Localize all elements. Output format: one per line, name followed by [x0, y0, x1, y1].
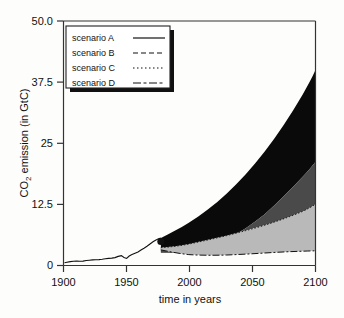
x-axis-title: time in years [159, 293, 222, 305]
legend-label-scenario-c: scenario C [72, 63, 116, 73]
present-day-point-marker [157, 238, 164, 245]
y-tick-label-0: 0 [47, 259, 53, 271]
x-tick-label-1950: 1950 [114, 276, 138, 288]
y-axis-title-main: CO [18, 181, 30, 198]
x-tick-label-2000: 2000 [177, 276, 201, 288]
y-tick-label-37-5: 37.5 [32, 76, 53, 88]
x-tick-label-2050: 2050 [240, 276, 264, 288]
legend-label-scenario-d: scenario D [72, 78, 116, 88]
legend-label-scenario-b: scenario B [72, 48, 115, 58]
legend-label-scenario-a: scenario A [72, 33, 114, 43]
x-tick-label-2100: 2100 [303, 276, 327, 288]
y-tick-label-50: 50.0 [32, 15, 53, 27]
y-tick-label-25: 25 [41, 137, 53, 149]
x-tick-label-1900: 1900 [51, 276, 75, 288]
co2-emission-chart: 0 12.5 25 37.5 50.0 1900 1950 2000 2050 … [0, 0, 344, 318]
y-axis-title-rest: emission (in GtC) [18, 89, 30, 177]
legend[interactable]: scenario A scenario B scenario C scenari… [66, 26, 174, 92]
chart-figure: 0 12.5 25 37.5 50.0 1900 1950 2000 2050 … [0, 0, 344, 318]
y-tick-label-12-5: 12.5 [32, 198, 53, 210]
